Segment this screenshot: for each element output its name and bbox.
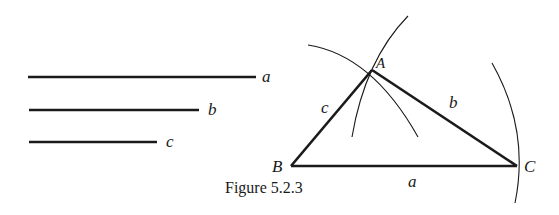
side-b [372,70,517,166]
vertex-c-label: C [524,157,536,176]
side-a-label: a [408,172,417,191]
vertex-b-label: B [272,157,283,176]
arc-through-c [492,63,519,203]
segment-c-label: c [166,132,174,151]
construction-diagram: a b c A B C c b a Figure 5.2.3 [0,0,559,215]
side-b-label: b [449,93,458,112]
side-c-label: c [321,98,329,117]
segment-a-label: a [262,67,271,86]
segment-b-label: b [208,100,217,119]
figure-caption: Figure 5.2.3 [225,179,303,197]
vertex-a-label: A [375,55,386,71]
side-c [291,70,372,166]
